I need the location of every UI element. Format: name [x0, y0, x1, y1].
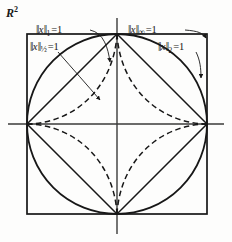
norm-variable: x	[38, 24, 43, 35]
norm-equals: =1	[50, 24, 62, 35]
norm-equals: =1	[172, 41, 184, 52]
norm-bar-left: ‖	[36, 23, 38, 37]
norm-subscript: 2	[168, 46, 172, 55]
label-norm-linf: ‖x‖∞=1	[128, 23, 157, 36]
norm-subscript: ½	[40, 44, 47, 54]
leader-l2	[196, 52, 201, 78]
norm-equals: =1	[145, 24, 157, 35]
norm-variable: x	[130, 24, 135, 35]
leader-lhalf	[58, 52, 100, 100]
norm-variable: x	[160, 41, 165, 52]
norm-subscript: ∞	[138, 27, 145, 37]
norm-subscript: 1	[46, 29, 50, 38]
label-norm-l1: ‖x‖1=1	[36, 23, 62, 36]
norm-equals: =1	[47, 41, 59, 52]
norm-bar-left: ‖	[128, 23, 130, 37]
label-norm-l2: ‖x‖2=1	[158, 40, 184, 53]
space-label: R2	[6, 6, 18, 19]
norm-variable: x	[32, 41, 37, 52]
norm-bar-left: ‖	[30, 40, 32, 54]
figure-canvas	[0, 0, 232, 242]
label-norm-lhalf: ‖x‖½=1	[30, 40, 59, 53]
norm-unit-balls-figure: R2 ‖x‖1=1 ‖x‖∞=1 ‖x‖½=1 ‖x‖2=1	[0, 0, 232, 242]
norm-bar-left: ‖	[158, 40, 160, 54]
